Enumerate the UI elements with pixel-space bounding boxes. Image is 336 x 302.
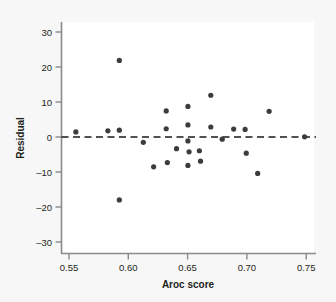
data-point xyxy=(165,160,170,165)
y-tick-label: –20 xyxy=(36,202,52,213)
plot-panel-background xyxy=(61,22,314,254)
data-point xyxy=(208,124,213,129)
data-point xyxy=(255,171,260,176)
data-point xyxy=(185,163,190,168)
data-point xyxy=(174,146,179,151)
data-point xyxy=(231,127,236,132)
y-tick-label: 0 xyxy=(47,132,52,143)
data-point xyxy=(186,149,191,154)
data-point xyxy=(185,138,190,143)
data-point xyxy=(151,164,156,169)
x-tick-label: 0.65 xyxy=(178,262,197,273)
x-tick-label: 0.60 xyxy=(119,262,138,273)
data-point xyxy=(198,159,203,164)
data-point xyxy=(244,151,249,156)
data-point xyxy=(117,58,122,63)
y-tick-label: 20 xyxy=(41,62,52,73)
data-point xyxy=(117,197,122,202)
x-tick-label: 0.55 xyxy=(60,262,79,273)
y-tick-label: –10 xyxy=(36,167,52,178)
scatter-plot: 30 20 10 0 –10 –20 –30 0.55 0.60 0.65 0.… xyxy=(0,0,336,302)
data-point xyxy=(267,109,272,114)
data-point xyxy=(220,137,225,142)
y-tick-label: 10 xyxy=(41,97,52,108)
x-axis-title: Aroc score xyxy=(162,279,215,290)
data-point xyxy=(105,128,110,133)
data-point xyxy=(185,104,190,109)
data-point xyxy=(208,93,213,98)
x-tick-label: 0.75 xyxy=(297,262,316,273)
data-point xyxy=(197,148,202,153)
data-point xyxy=(164,126,169,131)
data-point xyxy=(73,129,78,134)
y-tick-label: 30 xyxy=(41,27,52,38)
x-tick-label: 0.70 xyxy=(238,262,257,273)
data-point xyxy=(141,140,146,145)
y-axis-title: Residual xyxy=(15,117,26,159)
figure-container: 30 20 10 0 –10 –20 –30 0.55 0.60 0.65 0.… xyxy=(0,0,336,302)
y-tick-label: –30 xyxy=(36,237,52,248)
data-point xyxy=(117,128,122,133)
data-point xyxy=(164,108,169,113)
data-point xyxy=(185,122,190,127)
data-point xyxy=(302,134,307,139)
data-point xyxy=(243,127,248,132)
